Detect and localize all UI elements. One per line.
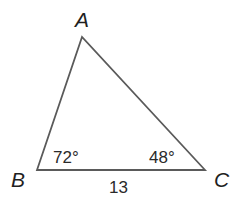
side-bc-label: 13 — [109, 178, 128, 197]
angle-c-label: 48° — [149, 148, 175, 167]
vertex-a-label: A — [73, 8, 89, 31]
triangle-diagram: A B C 72° 48° 13 — [0, 0, 242, 200]
angle-b-label: 72° — [53, 148, 79, 167]
vertex-c-label: C — [214, 168, 230, 191]
vertex-b-label: B — [11, 168, 25, 191]
